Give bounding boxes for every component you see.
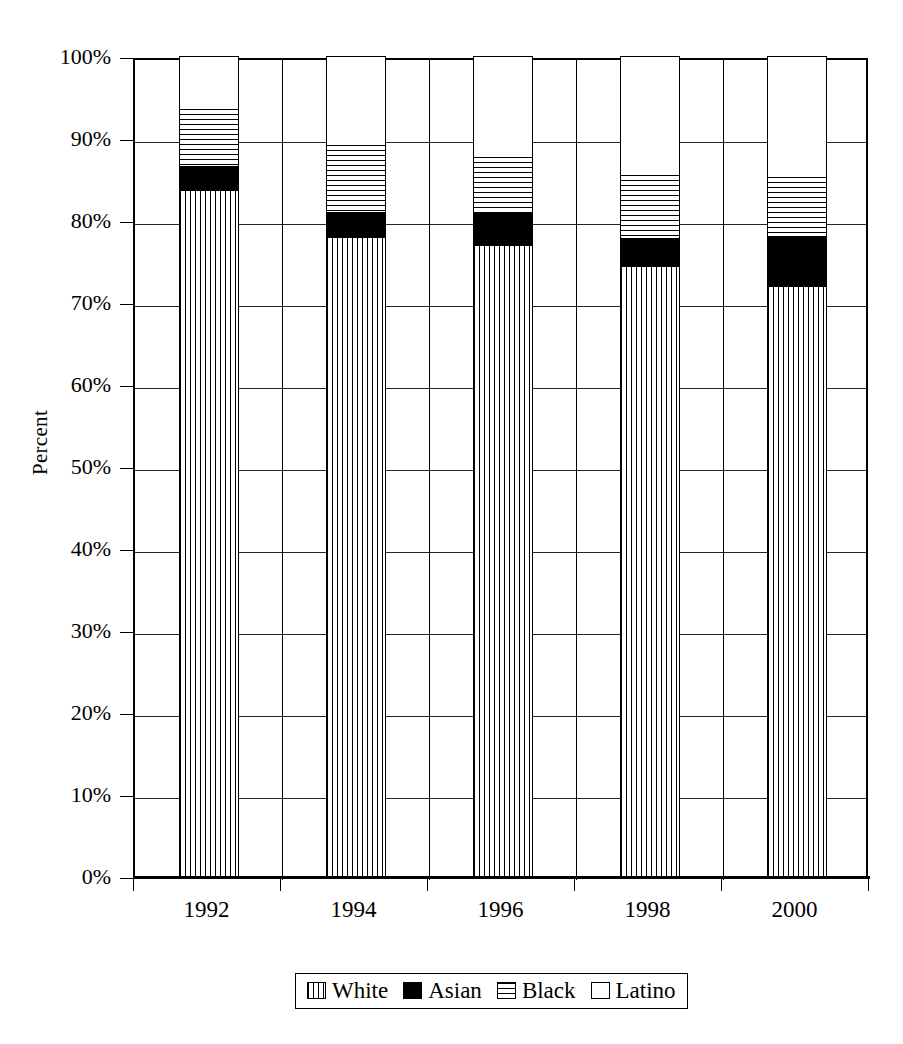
x-tick-mark xyxy=(721,878,722,891)
bars-layer xyxy=(135,60,866,876)
y-tick-label: 80% xyxy=(71,208,111,234)
y-tick-label: 90% xyxy=(71,126,111,152)
y-tick-label: 70% xyxy=(71,290,111,316)
x-tick-mark xyxy=(280,878,281,891)
x-tick-mark xyxy=(574,878,575,891)
legend-label: Black xyxy=(522,979,576,1002)
bar-1998[interactable] xyxy=(620,56,680,876)
legend-item-white[interactable]: White xyxy=(307,979,388,1002)
x-tick-mark xyxy=(133,878,134,891)
x-axis-line xyxy=(133,876,870,879)
y-tick-label: 30% xyxy=(71,618,111,644)
vertical-hatch-swatch xyxy=(307,982,326,999)
x-tick-mark xyxy=(427,878,428,891)
horizontal-hatch-swatch xyxy=(497,982,516,999)
y-tick-label: 40% xyxy=(71,536,111,562)
legend-item-black[interactable]: Black xyxy=(497,979,576,1002)
y-tick-mark xyxy=(120,796,133,797)
bar-segment-1994-latino[interactable] xyxy=(326,56,386,145)
y-tick-mark xyxy=(120,304,133,305)
bar-1992[interactable] xyxy=(179,56,239,876)
y-tick-mark xyxy=(120,632,133,633)
y-tick-mark xyxy=(120,386,133,387)
x-axis-label-1994: 1994 xyxy=(294,897,414,923)
y-tick-mark xyxy=(120,878,133,879)
y-tick-label: 0% xyxy=(82,864,111,890)
bar-segment-1998-asian[interactable] xyxy=(620,238,680,266)
bar-segment-2000-asian[interactable] xyxy=(767,236,827,286)
bar-segment-1996-black[interactable] xyxy=(473,157,533,214)
y-tick-mark xyxy=(120,714,133,715)
bar-1994[interactable] xyxy=(326,56,386,876)
y-tick-label: 20% xyxy=(71,700,111,726)
y-tick-label: 100% xyxy=(60,44,111,70)
plot-area xyxy=(133,58,868,878)
y-tick-mark xyxy=(120,58,133,59)
y-tick-mark xyxy=(120,140,133,141)
bar-segment-2000-latino[interactable] xyxy=(767,56,827,177)
y-axis-ticks: 100%90%80%70%60%50%40%30%20%10%0% xyxy=(0,58,133,878)
y-tick-mark xyxy=(120,222,133,223)
y-tick-mark xyxy=(120,550,133,551)
legend-label: Asian xyxy=(428,979,482,1002)
legend-item-latino[interactable]: Latino xyxy=(591,979,676,1002)
legend-label: White xyxy=(332,979,388,1002)
bar-segment-1996-asian[interactable] xyxy=(473,213,533,244)
legend-label: Latino xyxy=(616,979,676,1002)
bar-segment-1992-latino[interactable] xyxy=(179,56,239,109)
bar-segment-1994-black[interactable] xyxy=(326,145,386,211)
x-axis-label-1996: 1996 xyxy=(441,897,561,923)
bar-segment-1996-latino[interactable] xyxy=(473,56,533,157)
bar-segment-1992-asian[interactable] xyxy=(179,166,239,190)
x-axis-label-1992: 1992 xyxy=(147,897,267,923)
x-tick-mark xyxy=(868,878,869,891)
y-tick-mark xyxy=(120,468,133,469)
legend-item-asian[interactable]: Asian xyxy=(403,979,482,1002)
bar-segment-1992-white[interactable] xyxy=(179,190,239,876)
x-axis-label-1998: 1998 xyxy=(588,897,708,923)
bar-segment-1996-white[interactable] xyxy=(473,245,533,876)
bar-segment-1998-white[interactable] xyxy=(620,266,680,876)
bar-1996[interactable] xyxy=(473,56,533,876)
bar-segment-2000-black[interactable] xyxy=(767,177,827,236)
stacked-bar-chart: Percent 100%90%80%70%60%50%40%30%20%10%0… xyxy=(0,0,903,1044)
bar-segment-1998-black[interactable] xyxy=(620,175,680,238)
y-tick-label: 10% xyxy=(71,782,111,808)
bar-segment-1994-white[interactable] xyxy=(326,237,386,876)
x-axis-label-2000: 2000 xyxy=(735,897,855,923)
y-tick-label: 50% xyxy=(71,454,111,480)
y-tick-label: 60% xyxy=(71,372,111,398)
solid-black-swatch xyxy=(403,982,422,999)
bar-segment-1992-black[interactable] xyxy=(179,109,239,166)
bar-segment-2000-white[interactable] xyxy=(767,286,827,876)
empty-white-swatch xyxy=(591,982,610,999)
bar-segment-1998-latino[interactable] xyxy=(620,56,680,175)
chart-legend: WhiteAsianBlackLatino xyxy=(295,973,688,1009)
bar-segment-1994-asian[interactable] xyxy=(326,212,386,237)
bar-2000[interactable] xyxy=(767,56,827,876)
